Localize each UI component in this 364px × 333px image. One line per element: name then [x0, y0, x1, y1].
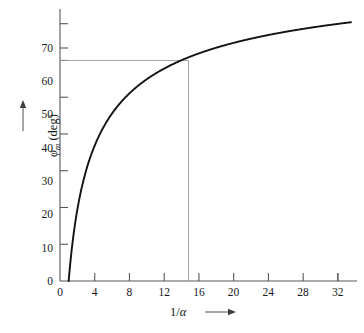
sixty-degree-guide [60, 60, 189, 281]
y-tick-label-70: 70 [42, 42, 54, 54]
x-axis-label-numerator: 1/ [170, 305, 180, 319]
x-axis-label-alpha: α [180, 305, 187, 319]
y-tick-label-60: 60 [42, 75, 54, 87]
phase-margin-curve [69, 22, 351, 281]
y-axis-label: φm (deg) [46, 90, 61, 182]
y-axis-label-subscript: m [52, 144, 62, 151]
x-tick-marks [95, 273, 338, 281]
x-tick-label-20: 20 [228, 286, 240, 298]
y-tick-label-10: 10 [42, 242, 54, 254]
x-tick-label-0: 0 [57, 286, 63, 298]
y-arrow-head [20, 100, 26, 108]
x-tick-label-24: 24 [263, 286, 275, 298]
x-axis-label: 1/α [170, 305, 186, 320]
x-tick-label-28: 28 [297, 286, 309, 298]
x-tick-label-16: 16 [193, 286, 205, 298]
x-tick-label-32: 32 [332, 286, 344, 298]
y-axis-label-phi: φ [46, 150, 60, 157]
chart-figure: 0 10 20 30 40 50 60 70 0 4 8 12 1 [0, 0, 364, 333]
x-tick-label-4: 4 [92, 286, 98, 298]
y-axis-label-units: (deg) [46, 114, 60, 144]
y-tick-label-0: 0 [47, 275, 53, 287]
x-arrow-head [228, 309, 236, 315]
x-tick-labels: 0 4 8 12 16 20 24 28 32 [57, 286, 344, 298]
x-axis-direction-arrow [205, 309, 236, 315]
x-tick-label-12: 12 [158, 286, 170, 298]
y-axis-direction-arrow [20, 100, 26, 131]
y-tick-label-20: 20 [42, 208, 54, 220]
x-tick-label-8: 8 [127, 286, 133, 298]
